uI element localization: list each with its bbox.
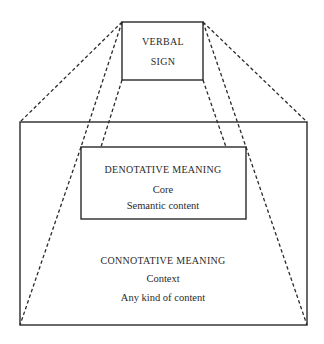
projection-line-top-right-outer xyxy=(203,22,307,122)
denotative-title: DENOTATIVE MEANING xyxy=(104,164,221,175)
connotative-context: Context xyxy=(146,273,179,284)
connotative-title: CONNOTATIVE MEANING xyxy=(100,255,225,266)
denotative-semantic-content: Semantic content xyxy=(127,200,200,211)
projection-line-denotative-to-bottom-left xyxy=(20,147,81,325)
verbal-sign-line1: VERBAL xyxy=(142,36,184,47)
connotative-any-content: Any kind of content xyxy=(121,292,205,303)
projection-line-top-left-to-denotative xyxy=(81,22,122,147)
projection-line-denotative-to-bottom-right xyxy=(246,147,307,325)
projection-line-bottom-right-to-denotative xyxy=(203,80,226,147)
verbal-sign-line2: SIGN xyxy=(151,56,176,67)
verbal-sign-box xyxy=(122,22,203,80)
projection-line-bottom-left-to-denotative xyxy=(101,80,122,147)
projection-line-top-left-outer xyxy=(20,22,122,122)
denotative-core: Core xyxy=(153,184,174,195)
verbal-sign-meaning-diagram: VERBAL SIGN DENOTATIVE MEANING Core Sema… xyxy=(0,0,324,344)
projection-line-top-right-to-denotative xyxy=(203,22,246,147)
